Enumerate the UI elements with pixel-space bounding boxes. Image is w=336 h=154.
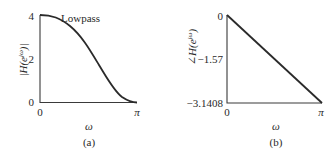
figure: 4 2 0 0 π Lowpass ω (a) |H(ejω)| 0 −1.57… [0,0,336,154]
ytick-2: 2 [29,53,35,65]
xtick-0-b: 0 [224,106,230,118]
panel-label-b: (b) [270,136,283,149]
ylabel-magnitude: |H(ejω)| [17,43,30,76]
ytick-4: 4 [29,10,35,22]
ytick-neg-1.57: −1.57 [198,53,224,65]
xlabel-omega-b: ω [272,120,280,132]
magnitude-curve [40,15,137,103]
axes-a [40,15,137,103]
ylabel-phase: ∠H(ejω) [186,29,199,66]
phase-line [227,15,322,103]
xtick-pi-b: π [318,106,324,118]
ytick-neg-3.1408: −3.1408 [187,97,224,109]
panel-a: 4 2 0 0 π Lowpass ω (a) |H(ejω)| [17,10,140,149]
panel-label-a: (a) [83,136,96,149]
panel-b: 0 −1.57 −3.1408 0 π ω (b) ∠H(ejω) [186,10,324,149]
xlabel-omega-a: ω [85,120,93,132]
lowpass-annotation: Lowpass [61,12,100,24]
ytick-0: 0 [29,96,35,108]
xtick-pi: π [134,106,140,118]
ytick-0-b: 0 [218,10,224,22]
xtick-0: 0 [37,106,43,118]
